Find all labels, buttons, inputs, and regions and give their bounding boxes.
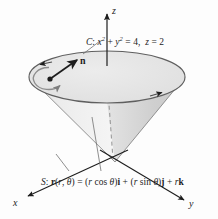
curve-z-value: 2 (159, 37, 164, 47)
surface-colon: : (46, 177, 49, 187)
surface-paren-close: ) (72, 177, 75, 187)
curve-plus: + (107, 37, 112, 47)
term1-cos: cos (94, 177, 107, 187)
curve-equation-label: C:x2+y2=4,z=2 (86, 36, 164, 48)
curve-colon: : (92, 37, 95, 47)
term2-sin: sin (140, 177, 151, 187)
surface-parametrization-label: S:r(r,θ)=(rcosθ)i+(rsinθ)j+rk (41, 178, 184, 188)
normal-vector-label: n (80, 56, 86, 66)
curve-equals: = (125, 37, 130, 47)
surface-plus2: + (167, 177, 172, 187)
x-axis-label: x (13, 198, 17, 208)
term2-r: r (134, 177, 138, 187)
surface-equals: = (77, 177, 82, 187)
curve-comma: , (138, 37, 140, 47)
curve-var-z: z (145, 37, 149, 47)
term3-unit-k: k (179, 177, 184, 187)
curve-z-equals: = (151, 37, 156, 47)
surface-plus1: + (123, 177, 128, 187)
term1-unit-i: i (117, 177, 120, 187)
z-axis-label: z (112, 6, 116, 16)
curve-exp-y: 2 (120, 35, 123, 42)
term1-r: r (88, 177, 92, 187)
y-axis-label: y (189, 199, 193, 209)
vector-calculus-cone-diagram: z x y n C:x2+y2=4,z=2 S:r(r,θ)=(rcosθ)i+… (0, 0, 218, 219)
surface-param-comma: , (62, 177, 64, 187)
x-axis (28, 150, 128, 196)
term2-unit-j: j (161, 177, 164, 187)
leader-line-surface-label-secondary (56, 154, 69, 171)
y-axis (100, 150, 184, 200)
curve-exp-x: 2 (102, 35, 105, 42)
